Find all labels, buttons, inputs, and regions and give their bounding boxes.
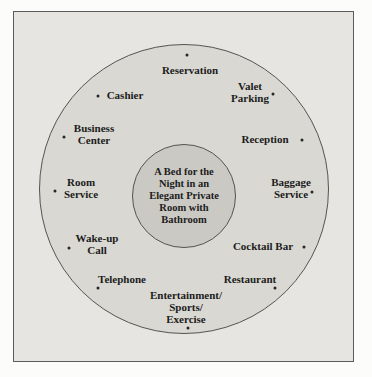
- ring-label-reception: Reception: [241, 133, 288, 145]
- figure-hotel-product-levels: { "diagram": { "core": { "label": "A Bed…: [0, 0, 372, 377]
- bullet-dot-reception: [301, 139, 304, 142]
- ring-label-entertainment-sports-exercise: Entertainment/ Sports/ Exercise: [150, 289, 222, 325]
- ring-label-restaurant: Restaurant: [224, 273, 277, 285]
- core-product-circle: A Bed for the Night in an Elegant Privat…: [132, 144, 236, 248]
- ring-label-cocktail-bar: Cocktail Bar: [233, 240, 293, 252]
- bullet-dot-valet-parking: [272, 93, 275, 96]
- bullet-dot-wake-up-call: [68, 247, 71, 250]
- ring-label-telephone: Telephone: [98, 273, 146, 285]
- ring-label-baggage-service: Baggage Service: [271, 176, 311, 200]
- ring-label-business-center: Business Center: [74, 122, 114, 146]
- ring-label-room-service: Room Service: [64, 176, 98, 200]
- bullet-dot-reservation: [186, 54, 189, 57]
- bullet-dot-telephone: [97, 287, 100, 290]
- bullet-dot-cocktail-bar: [303, 246, 306, 249]
- bullet-dot-room-service: [54, 190, 57, 193]
- bullet-dot-business-center: [63, 136, 66, 139]
- bullet-dot-restaurant: [274, 287, 277, 290]
- bullet-dot-entertainment-sports-exercise: [187, 327, 190, 330]
- core-product-label: A Bed for the Night in an Elegant Privat…: [149, 166, 219, 226]
- ring-label-wake-up-call: Wake-up Call: [76, 232, 119, 256]
- ring-label-cashier: Cashier: [107, 89, 144, 101]
- ring-label-valet-parking: Valet Parking: [231, 80, 269, 104]
- bullet-dot-baggage-service: [311, 191, 314, 194]
- ring-label-reservation: Reservation: [162, 64, 218, 76]
- bullet-dot-cashier: [97, 95, 100, 98]
